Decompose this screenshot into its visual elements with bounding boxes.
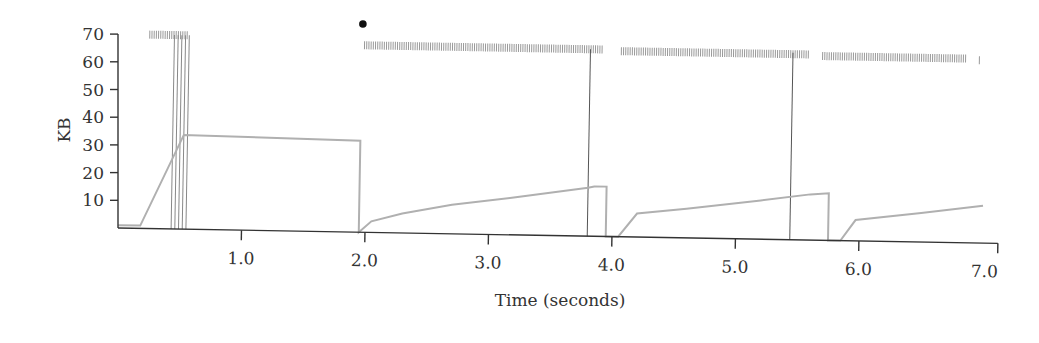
- x-axis-label: Time (seconds): [495, 290, 626, 310]
- plot-area: 1.02.03.04.05.06.07.0: [117, 16, 1002, 281]
- y-tick-label: 50: [82, 80, 104, 100]
- congestion-window-line: [118, 134, 984, 243]
- x-tick-label: 5.0: [721, 257, 748, 277]
- event-markers: [359, 20, 367, 28]
- x-tick-label: 7.0: [971, 261, 998, 281]
- timeout-line: [182, 35, 185, 229]
- timeout-line: [171, 35, 174, 229]
- y-tick-label: 40: [82, 107, 104, 127]
- x-tick-label: 2.0: [351, 250, 378, 270]
- kb-over-time-chart: 1.02.03.04.05.06.07.0 10203040506070 KB …: [0, 0, 1039, 343]
- send-mark-run: [621, 47, 808, 58]
- x-tick-label: 1.0: [227, 248, 254, 268]
- y-tick-label: 30: [82, 135, 104, 155]
- y-tick-label: 20: [82, 163, 104, 183]
- event-dot-marker: [359, 20, 367, 28]
- y-ticks: 10203040506070: [82, 24, 118, 210]
- x-tick-label: 6.0: [845, 259, 872, 279]
- y-tick-label: 60: [82, 52, 104, 72]
- send-mark-run: [364, 41, 602, 53]
- x-axis: [118, 228, 998, 243]
- x-tick-label: 3.0: [474, 252, 501, 272]
- packet-send-marks: [150, 31, 980, 65]
- timeout-line: [175, 35, 178, 229]
- timeout-line: [587, 49, 590, 236]
- y-axis-label: KB: [54, 117, 74, 142]
- timeout-line: [790, 53, 793, 240]
- y-tick-label: 10: [82, 190, 104, 210]
- send-mark-run: [823, 52, 966, 62]
- x-tick-label: 4.0: [598, 254, 625, 274]
- timeout-line: [179, 35, 182, 229]
- y-tick-label: 70: [82, 24, 104, 44]
- timeout-line: [186, 35, 189, 229]
